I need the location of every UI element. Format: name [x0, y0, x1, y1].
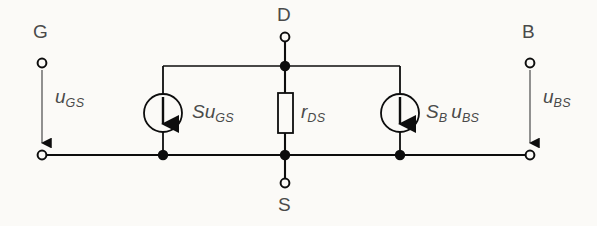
resistor-label-r-ds: rDS — [301, 102, 325, 121]
resistor-rds-body — [278, 93, 293, 133]
r-ds-subscript: DS — [307, 111, 325, 125]
drain-terminal-label: D — [277, 5, 291, 24]
sb-ubs-subscript: BS — [462, 111, 479, 125]
current-source-label-su-gs: SuGS — [192, 102, 234, 121]
su-gs-prefix: S — [192, 101, 205, 122]
gate-terminal-node — [38, 59, 47, 68]
u-gs-symbol: u — [55, 86, 66, 107]
bulk-rail-node — [526, 151, 535, 160]
source-terminal-node — [281, 179, 290, 188]
drain-terminal-node — [281, 33, 290, 42]
su-gs-symbol: u — [205, 101, 216, 122]
u-gs-subscript: GS — [66, 96, 85, 110]
sb-ubs-prefix: S — [426, 101, 439, 122]
voltage-label-u-bs: uBS — [543, 87, 571, 106]
schematic-svg — [0, 0, 597, 226]
voltage-label-u-gs: uGS — [55, 87, 84, 106]
node-source-a-dot — [158, 150, 168, 160]
source-terminal-label: S — [278, 195, 291, 214]
circuit-diagram-canvas: G D B S uGS uBS SuGS SBuBS rDS — [0, 0, 597, 226]
node-source-c-dot — [395, 150, 405, 160]
node-source-b-dot — [280, 150, 290, 160]
current-source-label-sb-ubs: SBuBS — [426, 102, 479, 121]
sb-ubs-prefix-subscript: B — [439, 111, 448, 125]
gate-rail-node — [38, 151, 47, 160]
bulk-terminal-label: B — [522, 22, 535, 41]
u-bs-symbol: u — [543, 86, 554, 107]
u-bs-subscript: BS — [554, 96, 571, 110]
node-drain-dot — [280, 61, 290, 71]
su-gs-subscript: GS — [215, 111, 234, 125]
gate-terminal-label: G — [33, 22, 48, 41]
sb-ubs-symbol: u — [451, 101, 462, 122]
bulk-terminal-node — [526, 59, 535, 68]
